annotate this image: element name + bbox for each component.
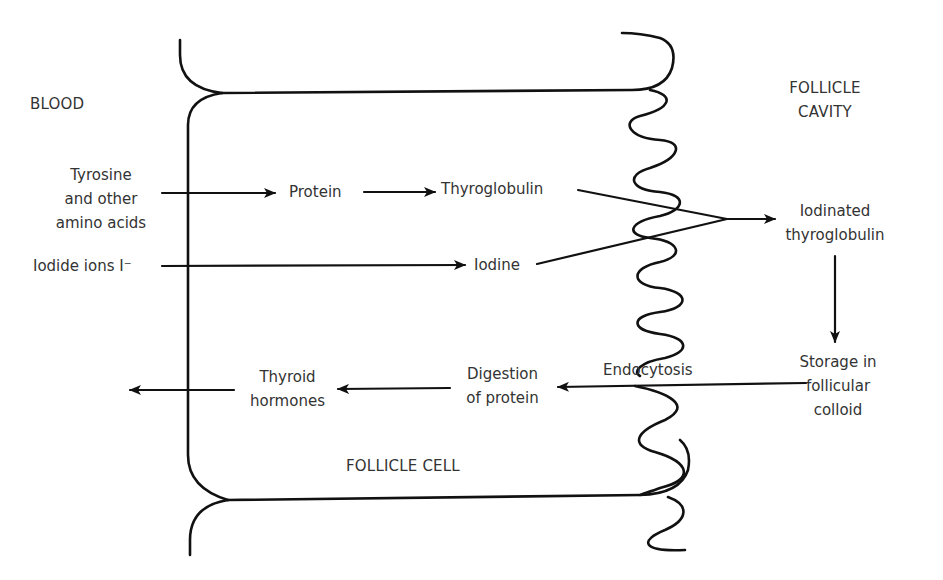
digestion-line1: Digestion (455, 362, 550, 386)
node-thyroid-hormones: Thyroid hormones (240, 365, 335, 413)
arrow-iodide-iodine (162, 265, 465, 266)
node-iodinated-thyroglobulin: Iodinated thyroglobulin (775, 199, 895, 247)
node-protein: Protein (289, 180, 342, 204)
hormones-line1: Thyroid (240, 365, 335, 389)
tyrosine-line3: amino acids (42, 211, 160, 235)
storage-line1: Storage in (788, 350, 888, 374)
node-tyrosine: Tyrosine and other amino acids (42, 163, 160, 235)
line-iodine-merge (537, 219, 727, 264)
hormones-line2: hormones (240, 389, 335, 413)
basal-membrane (180, 40, 228, 555)
digestion-line2: of protein (455, 386, 550, 410)
region-follicle-cell-label: FOLLICLE CELL (346, 454, 460, 478)
node-storage: Storage in follicular colloid (788, 350, 888, 422)
arrows (130, 190, 835, 390)
tyrosine-line2: and other (42, 187, 160, 211)
tyrosine-line1: Tyrosine (42, 163, 160, 187)
region-blood-label: BLOOD (30, 92, 84, 116)
line-thyroglobulin-merge (578, 190, 727, 219)
node-thyroglobulin: Thyroglobulin (441, 177, 543, 201)
apical-membrane (630, 90, 684, 376)
node-iodine: Iodine (474, 253, 520, 277)
node-endocytosis: Endocytosis (603, 358, 693, 382)
arrow-digestion-hormones (338, 388, 450, 389)
storage-line3: colloid (788, 398, 888, 422)
follicle-cavity-line1: FOLLICLE (770, 76, 880, 100)
node-iodide: Iodide ions I⁻ (33, 254, 132, 278)
region-follicle-cavity-label: FOLLICLE CAVITY (770, 76, 880, 124)
iodinated-line2: thyroglobulin (775, 223, 895, 247)
storage-line2: follicular (788, 374, 888, 398)
apical-membrane-lower (635, 386, 684, 495)
follicle-cavity-line2: CAVITY (770, 100, 880, 124)
arrow-storage-digestion (558, 383, 806, 387)
node-digestion: Digestion of protein (455, 362, 550, 410)
apical-membrane-tail (648, 497, 685, 550)
iodinated-line1: Iodinated (775, 199, 895, 223)
